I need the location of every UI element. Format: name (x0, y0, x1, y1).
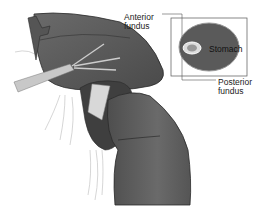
anterior-fundus-label: Anterior fundus (124, 13, 154, 31)
illustration (0, 0, 266, 214)
posterior-line2: fundus (218, 87, 252, 96)
anterior-line2: fundus (124, 22, 154, 31)
posterior-fundus-label: Posterior fundus (218, 78, 252, 96)
stomach-label: Stomach (209, 45, 243, 54)
stomach-body (107, 93, 190, 205)
